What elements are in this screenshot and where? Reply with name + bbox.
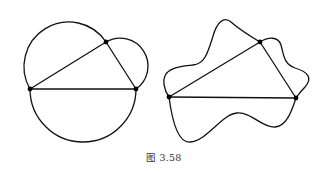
vertex-b-left: [134, 87, 139, 92]
vertex-a-right: [167, 95, 172, 100]
semicircle-on-left-side: [24, 22, 106, 89]
semicircle-on-base: [30, 89, 136, 142]
right-figure: [164, 20, 309, 142]
left-triangle: [30, 42, 136, 89]
vertex-c-right: [258, 40, 263, 45]
vertex-b-right: [294, 96, 299, 101]
semicircle-on-right-side: [106, 38, 148, 89]
figure-caption: 图 3.58: [146, 150, 181, 164]
irregular-closed-curve: [164, 20, 309, 142]
right-triangle: [169, 42, 296, 98]
vertex-a-left: [28, 87, 33, 92]
vertex-c-left: [104, 40, 109, 45]
figure-canvas: [0, 0, 329, 173]
left-figure: [24, 22, 148, 142]
